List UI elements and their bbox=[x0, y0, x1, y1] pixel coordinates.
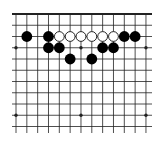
white-stone bbox=[109, 32, 119, 42]
star-point bbox=[79, 46, 82, 49]
white-stone bbox=[54, 32, 64, 42]
star-point bbox=[14, 114, 17, 117]
black-stone bbox=[86, 54, 97, 65]
star-point bbox=[14, 46, 17, 49]
black-stone bbox=[43, 42, 54, 53]
black-stone bbox=[97, 42, 108, 53]
black-stone bbox=[130, 31, 141, 42]
black-stone bbox=[54, 42, 65, 53]
black-stone bbox=[21, 31, 32, 42]
white-stone bbox=[98, 32, 108, 42]
star-point bbox=[144, 46, 147, 49]
star-point bbox=[144, 114, 147, 117]
black-stone bbox=[108, 42, 119, 53]
white-stone bbox=[87, 32, 97, 42]
star-point bbox=[79, 114, 82, 117]
black-stone bbox=[119, 31, 130, 42]
white-stone bbox=[76, 32, 86, 42]
go-board bbox=[0, 0, 163, 149]
black-stone bbox=[43, 31, 54, 42]
white-stone bbox=[65, 32, 75, 42]
black-stone bbox=[65, 54, 76, 65]
